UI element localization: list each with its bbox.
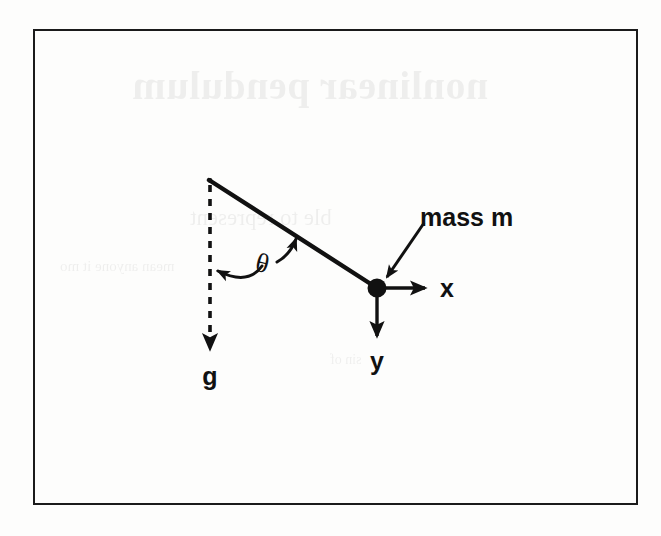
scanned-figure-page: nonlinear pendulum ble to represent mean… bbox=[0, 0, 661, 536]
figure-frame-border bbox=[33, 29, 638, 505]
